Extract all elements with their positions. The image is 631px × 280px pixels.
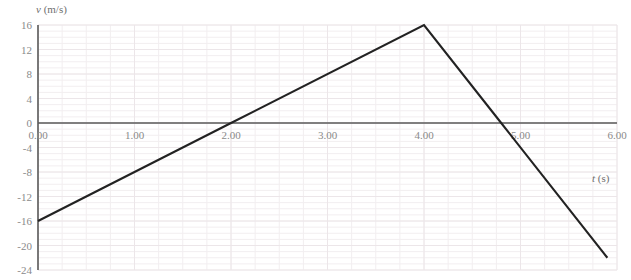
- y-tick-label: -12: [17, 191, 32, 203]
- y-tick-label: -8: [23, 166, 33, 178]
- x-tick-label: 1.00: [125, 129, 145, 141]
- chart-canvas: 1612840-4-8-12-16-20-24 0.001.002.003.00…: [0, 0, 631, 280]
- y-tick-label: -16: [17, 215, 32, 227]
- y-tick-label: 12: [21, 44, 32, 56]
- x-axis-title: t (s): [592, 172, 610, 185]
- x-tick-label: 4.00: [414, 129, 434, 141]
- y-tick-label: -24: [17, 264, 32, 276]
- y-tick-label: 0: [27, 117, 33, 129]
- y-tick-label: -20: [17, 240, 32, 252]
- velocity-time-chart: 1612840-4-8-12-16-20-24 0.001.002.003.00…: [0, 0, 631, 280]
- x-tick-label: 0.00: [28, 129, 48, 141]
- y-axis-title: v (m/s): [36, 3, 67, 16]
- x-tick-label: 2.00: [221, 129, 241, 141]
- y-tick-label: 8: [27, 68, 33, 80]
- x-tick-label: 3.00: [318, 129, 338, 141]
- y-tick-label: 16: [21, 19, 33, 31]
- y-tick-label: -4: [23, 142, 33, 154]
- y-tick-label: 4: [27, 93, 33, 105]
- chart-background: [0, 0, 631, 280]
- x-tick-label: 6.00: [607, 129, 627, 141]
